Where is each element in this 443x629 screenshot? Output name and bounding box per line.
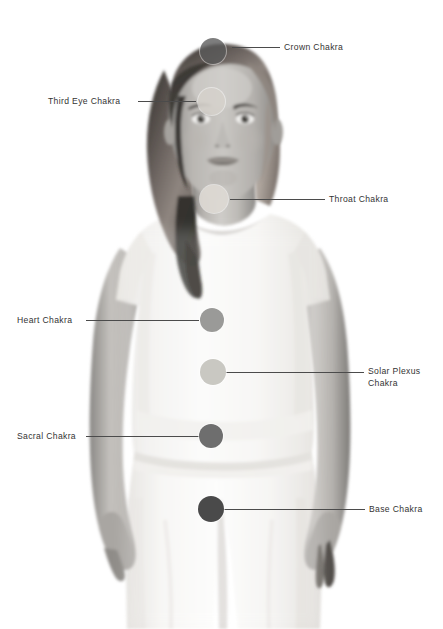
chakra-dot-solar-plexus[interactable] — [200, 359, 226, 385]
chakra-label-third-eye: Third Eye Chakra — [48, 95, 120, 107]
chakra-label-crown-text: Crown Chakra — [284, 42, 343, 52]
chakra-dot-crown[interactable] — [200, 38, 226, 64]
chakra-label-sacral-text: Sacral Chakra — [17, 431, 76, 441]
leader-line-heart — [86, 320, 199, 321]
chakra-label-solar-plexus: Solar Plexus Chakra — [368, 365, 420, 389]
chakra-label-throat: Throat Chakra — [329, 193, 388, 205]
leader-line-throat — [230, 199, 325, 200]
chakra-label-throat-text: Throat Chakra — [329, 194, 388, 204]
leader-line-sacral — [86, 436, 200, 437]
chakra-label-sacral: Sacral Chakra — [17, 430, 76, 442]
chakra-label-base-text: Base Chakra — [369, 504, 423, 514]
chakra-dot-third-eye[interactable] — [198, 88, 225, 115]
chakra-label-heart: Heart Chakra — [17, 314, 72, 326]
leader-line-base — [222, 509, 365, 510]
chakra-dot-throat[interactable] — [200, 185, 228, 213]
chakra-dot-base[interactable] — [198, 496, 224, 522]
chakra-label-solar-plexus-text: Solar Plexus — [368, 366, 420, 376]
chakra-label-crown: Crown Chakra — [284, 41, 343, 53]
chakra-diagram: Crown Chakra Third Eye Chakra Throat Cha… — [0, 0, 443, 629]
chakra-label-heart-text: Heart Chakra — [17, 315, 72, 325]
leader-line-solar-plexus — [224, 372, 364, 373]
leader-line-crown — [232, 47, 280, 48]
chakra-label-base: Base Chakra — [369, 503, 423, 515]
chakra-dot-sacral[interactable] — [199, 424, 223, 448]
leader-line-third-eye — [138, 101, 196, 102]
chakra-label-third-eye-text: Third Eye Chakra — [48, 96, 120, 106]
chakra-dot-heart[interactable] — [200, 308, 224, 332]
chakra-label-solar-plexus-text-line2: Chakra — [368, 377, 420, 389]
